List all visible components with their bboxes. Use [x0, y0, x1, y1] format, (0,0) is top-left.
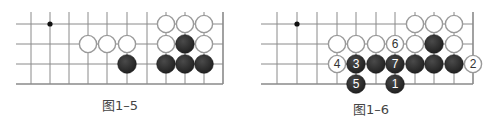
white-stone: [328, 35, 345, 52]
figure-caption-1-6: 图1–6: [353, 99, 389, 118]
black-stone-move-1: 1: [386, 75, 405, 94]
white-stone: [367, 35, 384, 52]
black-stone: [157, 55, 176, 74]
white-stone: [347, 35, 364, 52]
white-stone: [425, 15, 442, 32]
black-stone: [406, 55, 425, 74]
white-stone: [406, 35, 423, 52]
black-stone: [367, 55, 386, 74]
black-stone: [176, 35, 195, 54]
black-stone: [425, 55, 444, 74]
black-stone: [118, 55, 137, 74]
move-number: 1: [392, 77, 399, 91]
move-number: 5: [353, 77, 360, 91]
white-stone: [195, 15, 212, 32]
move-number: 4: [334, 57, 341, 71]
go-board-figure-1-5: [16, 12, 223, 84]
white-stone: [176, 15, 193, 32]
move-number: 3: [353, 57, 360, 71]
white-stone: [157, 15, 174, 32]
white-stone-move-4: 4: [328, 55, 345, 72]
go-board-figure-1-6: 6437251: [261, 12, 482, 93]
white-stone-move-2: 2: [464, 55, 481, 72]
white-stone: [445, 15, 462, 32]
move-number: 2: [470, 57, 477, 71]
white-stone: [445, 35, 462, 52]
black-stone-move-5: 5: [347, 75, 366, 94]
black-stone-move-7: 7: [386, 55, 405, 74]
white-stone: [118, 35, 135, 52]
black-stone: [425, 35, 444, 54]
white-stone: [195, 35, 212, 52]
white-stone: [79, 35, 96, 52]
move-number: 7: [392, 57, 399, 71]
black-stone-move-3: 3: [347, 55, 366, 74]
black-stone: [176, 55, 195, 74]
figure-caption-1-5: 图1–5: [102, 95, 138, 114]
white-stone: [406, 15, 423, 32]
star-point-icon: [47, 21, 52, 26]
black-stone: [195, 55, 214, 74]
white-stone-move-6: 6: [386, 35, 403, 52]
star-point-icon: [294, 21, 299, 26]
white-stone: [157, 35, 174, 52]
black-stone: [445, 55, 464, 74]
move-number: 6: [392, 37, 399, 51]
white-stone: [98, 35, 115, 52]
go-diagrams: 6437251: [0, 0, 495, 123]
